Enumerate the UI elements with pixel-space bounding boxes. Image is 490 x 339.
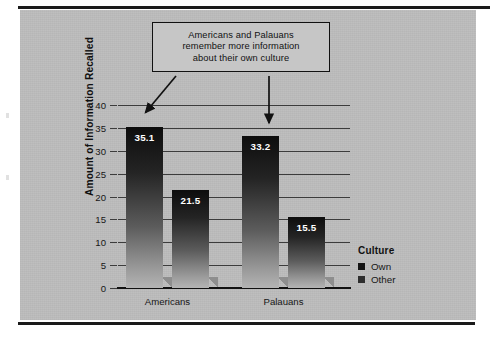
x-tick-label-palauans: Palauans (242, 296, 325, 307)
ytick-35 (110, 128, 117, 129)
legend-label-other: Other (371, 274, 396, 285)
legend-title: Culture (358, 245, 396, 256)
y-tick-label-30: 30 (95, 145, 106, 156)
bar-palauans-own[interactable]: 33.2 (242, 136, 279, 288)
legend-label-own: Own (371, 261, 391, 272)
bar-value-label: 33.2 (242, 141, 279, 152)
bar-value-label: 15.5 (288, 222, 325, 233)
margin-artifact (6, 113, 9, 118)
bar-shadow (163, 277, 172, 288)
legend-item-other[interactable]: Other (358, 274, 396, 285)
annotation-callout: Americans and Palauans remember more inf… (152, 22, 330, 72)
ytick-30 (110, 151, 117, 152)
ytick-15 (110, 219, 117, 220)
ytick-0 (110, 288, 117, 289)
y-tick-label-25: 25 (95, 168, 106, 179)
legend-item-own[interactable]: Own (358, 261, 396, 272)
bar-shadow (209, 277, 218, 288)
y-tick-label-10: 10 (95, 237, 106, 248)
y-tick-label-40: 40 (95, 100, 106, 111)
ytick-20 (110, 197, 117, 198)
ytick-25 (110, 174, 117, 175)
callout-line-1: Americans and Palauans (188, 30, 294, 42)
ytick-10 (110, 242, 117, 243)
bar-value-label: 21.5 (172, 195, 209, 206)
y-tick-label-0: 0 (101, 283, 106, 294)
ytick-40 (110, 105, 117, 106)
callout-line-2: remember more information (182, 41, 299, 53)
ytick-5 (110, 265, 117, 266)
y-tick-label-35: 35 (95, 122, 106, 133)
bar-shadow (325, 277, 334, 288)
legend: Culture Own Other (358, 245, 396, 285)
plot-area: 40 35 30 25 20 15 10 5 0 35.1 21.5 (118, 105, 350, 288)
margin-artifact (6, 175, 9, 180)
legend-swatch-other-icon (358, 276, 365, 283)
figure-container: Amount of Information Recalled 40 35 30 … (0, 0, 490, 339)
x-tick-label-americans: Americans (126, 296, 209, 307)
y-tick-label-20: 20 (95, 191, 106, 202)
top-rule (18, 6, 490, 9)
bottom-rule (18, 322, 475, 325)
bar-shadow (279, 277, 288, 288)
callout-line-3: about their own culture (193, 53, 289, 65)
bar-americans-other[interactable]: 21.5 (172, 190, 209, 288)
bar-value-label: 35.1 (126, 132, 163, 143)
gridline-40 (118, 105, 350, 106)
bar-americans-own[interactable]: 35.1 (126, 127, 163, 288)
legend-swatch-own-icon (358, 263, 365, 270)
y-tick-label-15: 15 (95, 214, 106, 225)
y-axis-title: Amount of Information Recalled (84, 37, 95, 196)
y-tick-label-5: 5 (101, 260, 106, 271)
bar-palauans-other[interactable]: 15.5 (288, 217, 325, 288)
